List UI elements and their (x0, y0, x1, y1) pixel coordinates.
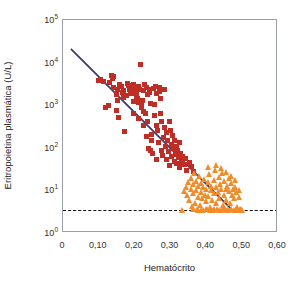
y-axis-tick-label: 103 (44, 98, 58, 110)
data-point-anemic-patients (101, 79, 106, 84)
x-axis-minor-tick (81, 231, 82, 232)
data-point-anemic-patients (162, 87, 167, 92)
x-axis-tick-label: 0,50 (232, 240, 250, 250)
y-axis-minor-tick (62, 197, 63, 198)
plot-area (62, 19, 277, 232)
y-axis-minor-tick (62, 85, 63, 86)
y-axis-minor-tick (62, 50, 63, 51)
y-axis-minor-tick (62, 27, 63, 28)
y-axis-minor-tick (62, 170, 63, 171)
y-axis-minor-tick (62, 135, 63, 136)
data-point-anemic-patients (136, 116, 141, 121)
y-axis-minor-tick (62, 192, 63, 193)
y-axis-minor-tick (62, 112, 63, 113)
data-point-normal-subjects (238, 207, 244, 213)
y-axis-minor-tick (62, 29, 63, 30)
x-axis-minor-tick (224, 231, 225, 232)
data-point-anemic-patients (145, 92, 150, 97)
x-axis-tick (99, 231, 100, 232)
data-point-normal-subjects (236, 194, 242, 200)
data-point-anemic-patients (149, 138, 154, 143)
y-axis-minor-tick (62, 195, 63, 196)
data-point-anemic-patients (177, 140, 182, 145)
data-point-anemic-patients (168, 128, 173, 133)
data-point-anemic-patients (149, 132, 154, 137)
data-point-anemic-patients (140, 98, 145, 103)
data-point-anemic-patients (163, 144, 168, 149)
y-axis-minor-tick (62, 80, 63, 81)
y-axis-minor-tick (62, 109, 63, 110)
data-point-anemic-patients (114, 92, 119, 97)
x-axis-tick (63, 231, 64, 232)
data-point-anemic-patients (167, 163, 172, 168)
x-axis-tick-label: 0,60 (268, 240, 286, 250)
y-axis-minor-tick (62, 207, 63, 208)
data-point-anemic-patients (154, 157, 159, 162)
x-axis-minor-tick (153, 231, 154, 232)
x-axis-minor-tick (260, 231, 261, 232)
data-point-anemic-patients (128, 89, 133, 94)
y-axis-minor-tick (62, 67, 63, 68)
y-axis-tick (62, 63, 63, 64)
y-axis-minor-tick (62, 220, 63, 221)
data-point-anemic-patients (111, 74, 116, 79)
data-point-anemic-patients (138, 62, 143, 67)
y-axis-tick-label: 100 (44, 226, 58, 238)
y-axis-tick-labels: 100101102103104105 (26, 19, 58, 232)
data-point-normal-subjects (179, 207, 185, 213)
y-axis-minor-tick (62, 92, 63, 93)
y-axis-tick (62, 20, 63, 21)
y-axis-minor-tick (62, 118, 63, 119)
y-axis-minor-tick (62, 213, 63, 214)
y-axis-minor-tick (62, 157, 63, 158)
x-axis-minor-tick (188, 231, 189, 232)
data-point-anemic-patients (115, 98, 120, 103)
x-axis-tick-labels: 00,100,200,300,400,500,60 (62, 240, 277, 254)
data-point-normal-subjects (232, 177, 238, 183)
y-axis-minor-tick (62, 127, 63, 128)
data-point-anemic-patients (152, 102, 157, 107)
y-axis-minor-tick (62, 24, 63, 25)
data-point-anemic-patients (148, 148, 153, 153)
data-point-anemic-patients (156, 140, 161, 145)
x-axis-tick (135, 231, 136, 232)
y-axis-tick-label: 104 (44, 56, 58, 68)
regression-line (63, 20, 277, 232)
y-axis-title-label: Eritropoietina plasmática (U/L) (3, 62, 14, 190)
y-axis-minor-tick (62, 69, 63, 70)
x-axis-minor-tick (117, 231, 118, 232)
y-axis-minor-tick (62, 37, 63, 38)
y-axis-minor-tick (62, 178, 63, 179)
y-axis-title: Eritropoietina plasmática (U/L) (1, 19, 15, 232)
y-axis-tick (62, 148, 63, 149)
y-axis-minor-tick (62, 22, 63, 23)
y-axis-minor-tick (62, 122, 63, 123)
data-point-anemic-patients (164, 157, 169, 162)
x-axis-tick-label: 0,10 (89, 240, 107, 250)
x-axis-tick-label: 0,30 (161, 240, 179, 250)
data-point-anemic-patients (158, 111, 163, 116)
y-axis-minor-tick (62, 203, 63, 204)
x-axis-tick-label: 0,40 (197, 240, 215, 250)
y-axis-minor-tick (62, 65, 63, 66)
y-axis-minor-tick (62, 152, 63, 153)
data-point-anemic-patients (141, 123, 146, 128)
x-axis-tick (242, 231, 243, 232)
data-point-anemic-patients (122, 129, 127, 134)
data-point-anemic-patients (116, 115, 121, 120)
y-axis-minor-tick (62, 200, 63, 201)
y-axis-minor-tick (62, 150, 63, 151)
x-axis-tick-label: 0,20 (125, 240, 143, 250)
data-point-anemic-patients (155, 128, 160, 133)
data-point-anemic-patients (158, 96, 163, 101)
y-axis-minor-tick (62, 154, 63, 155)
x-axis-tick-label: 0 (59, 240, 64, 250)
y-axis-minor-tick (62, 33, 63, 34)
data-point-anemic-patients (131, 111, 136, 116)
data-point-normal-subjects (205, 164, 211, 170)
y-axis-minor-tick (62, 42, 63, 43)
y-axis-minor-tick (62, 107, 63, 108)
data-point-anemic-patients (167, 119, 172, 124)
x-axis-title: Hematócrito (62, 262, 277, 273)
y-axis-minor-tick (62, 72, 63, 73)
